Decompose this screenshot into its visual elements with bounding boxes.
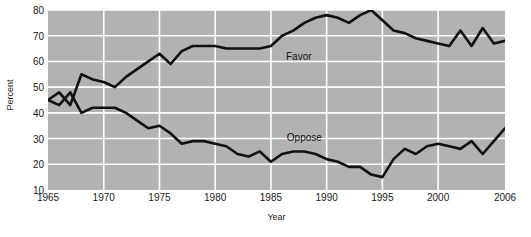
x-tick-label: 2006: [494, 192, 516, 203]
y-tick-label: 30: [4, 133, 48, 144]
series-annotation-oppose: Oppose: [287, 132, 322, 143]
plot-canvas: [48, 10, 505, 190]
x-tick-label: 1975: [148, 192, 170, 203]
x-tick-label: 1990: [316, 192, 338, 203]
x-axis-label-text: Year: [267, 212, 285, 222]
y-tick-label: 70: [4, 30, 48, 41]
x-tick-label: 1980: [204, 192, 226, 203]
x-tick-label: 1965: [37, 192, 59, 203]
chart-figure: Percent 1020304050607080 196519701975198…: [0, 0, 531, 237]
plot-area: [48, 10, 505, 190]
x-tick-label: 1970: [93, 192, 115, 203]
gridlines: [48, 10, 505, 190]
y-tick-label: 40: [4, 107, 48, 118]
series-annotation-favor: Favor: [286, 51, 312, 62]
x-axis-label: Year: [48, 212, 505, 222]
y-tick-label: 50: [4, 82, 48, 93]
x-tick-label: 1995: [371, 192, 393, 203]
y-tick-label: 60: [4, 56, 48, 67]
series-line-favor: [48, 10, 505, 105]
x-tick-label: 1985: [260, 192, 282, 203]
x-tick-label: 2000: [427, 192, 449, 203]
y-tick-label: 80: [4, 5, 48, 16]
y-tick-label: 20: [4, 159, 48, 170]
